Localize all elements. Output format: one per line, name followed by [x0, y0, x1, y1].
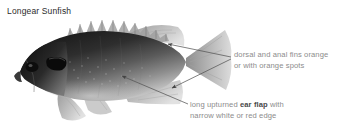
annotation-dorsal-anal-fins: dorsal and anal fins orange or with oran… [234, 50, 328, 71]
annotation-ear-flap: long upturned ear flap with narrow white… [190, 100, 284, 121]
figure-panel: Longear Sunfish [0, 0, 349, 140]
annotation-text-pre: long upturned [190, 100, 240, 109]
annotation-line-1: dorsal and anal fins orange [234, 50, 328, 61]
fish-eye [26, 62, 39, 72]
annotation-line-2: or with orange spots [234, 61, 328, 72]
annotation-line-1: long upturned ear flap with [190, 100, 284, 111]
annotation-line-2: narrow white or red edge [190, 111, 284, 122]
caudal-fin [186, 30, 231, 90]
annotation-text-post: with [268, 100, 284, 109]
annotation-emphasis-ear-flap: ear flap [240, 100, 268, 109]
